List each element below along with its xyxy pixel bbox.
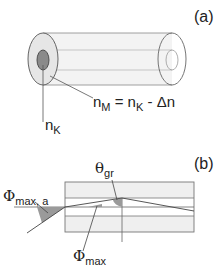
core-index-label: nK — [45, 117, 61, 132]
cladding-sub: M — [101, 101, 110, 113]
theta-label: θgr — [95, 160, 114, 176]
cladding-index-label: nM = nK - Δn — [93, 94, 175, 109]
phi-symbol: Φ — [73, 247, 85, 265]
theta-symbol: θ — [95, 159, 104, 177]
phi-a-symbol: Φ — [3, 187, 15, 205]
phi-max-a-label: Φmax, a — [3, 188, 48, 204]
phi-a-sub: max, a — [15, 195, 48, 207]
cladding-eq: = n — [111, 93, 136, 110]
theta-sub: gr — [104, 167, 114, 179]
internal-angle-wedge — [88, 204, 102, 207]
panel-b-label: (b) — [194, 156, 214, 172]
diagram-canvas — [0, 0, 224, 269]
upper-cladding — [65, 182, 194, 198]
core-sub: K — [53, 124, 60, 136]
lower-cladding — [65, 216, 194, 232]
cladding-sub2: K — [136, 101, 143, 113]
phi-sub: max — [85, 255, 106, 267]
cylinder-body — [43, 33, 172, 85]
phi-max-label: Φmax — [73, 248, 106, 264]
panel-a-label: (a) — [194, 9, 214, 25]
cladding-rest: - Δn — [143, 93, 175, 110]
